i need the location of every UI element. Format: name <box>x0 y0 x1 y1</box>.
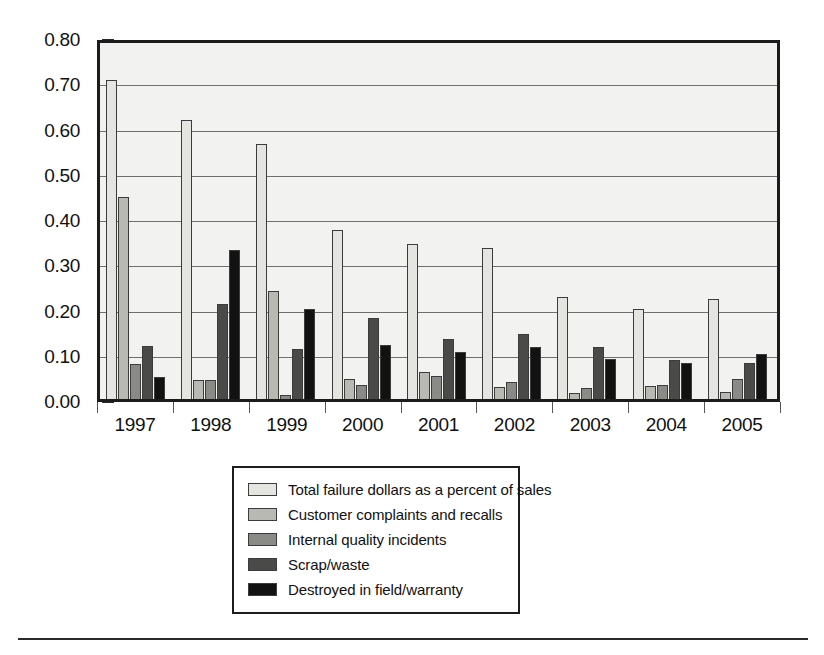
x-tick-mark <box>401 402 402 413</box>
bar-group-2000 <box>326 43 401 399</box>
bar <box>368 318 379 399</box>
bar-group-1998 <box>175 43 250 399</box>
bar <box>181 120 192 399</box>
x-axis-label-2004: 2004 <box>628 414 704 444</box>
legend-item: Internal quality incidents <box>248 527 508 552</box>
bar <box>681 363 692 399</box>
legend-item-label: Total failure dollars as a percent of sa… <box>288 481 551 498</box>
legend-swatch-scrap-waste <box>248 558 277 571</box>
legend-item-label: Internal quality incidents <box>288 531 446 548</box>
x-axis-ticks <box>97 402 780 414</box>
bar <box>443 339 454 399</box>
legend-item-label: Destroyed in field/warranty <box>288 581 463 598</box>
bar <box>506 382 517 399</box>
plot-area <box>97 40 780 402</box>
bar <box>407 244 418 399</box>
bar <box>419 372 430 399</box>
bar <box>530 347 541 399</box>
bar <box>708 299 719 399</box>
bar <box>633 309 644 399</box>
bar-groups <box>100 43 777 399</box>
x-axis-label-2000: 2000 <box>325 414 401 444</box>
bar <box>431 376 442 399</box>
legend-item: Scrap/waste <box>248 552 508 577</box>
legend-item: Customer complaints and recalls <box>248 502 508 527</box>
y-tick-label: 0.70 <box>44 74 80 96</box>
bar <box>669 360 680 399</box>
x-axis-label-1998: 1998 <box>173 414 249 444</box>
bar <box>657 385 668 399</box>
bar <box>106 80 117 399</box>
legend-swatch-total-failure-dollars <box>248 483 277 496</box>
legend-swatch-customer-complaints <box>248 508 277 521</box>
bar <box>142 346 153 399</box>
bar <box>217 304 228 399</box>
bar <box>494 387 505 399</box>
x-tick-mark <box>173 402 174 413</box>
bar <box>581 388 592 399</box>
bar <box>280 395 291 399</box>
x-axis-label-2001: 2001 <box>401 414 477 444</box>
bar <box>332 230 343 399</box>
x-tick-mark <box>704 402 705 413</box>
x-axis-label-1999: 1999 <box>249 414 325 444</box>
x-tick-mark <box>628 402 629 413</box>
bar <box>744 363 755 399</box>
bar-group-1997 <box>100 43 175 399</box>
bar <box>256 144 267 399</box>
bar <box>229 250 240 399</box>
bar-group-2001 <box>401 43 476 399</box>
y-tick-label: 0.00 <box>44 391 80 413</box>
x-axis-label-2003: 2003 <box>552 414 628 444</box>
x-axis-label-2002: 2002 <box>476 414 552 444</box>
bar <box>268 291 279 399</box>
bar <box>356 385 367 399</box>
bar-group-2002 <box>476 43 551 399</box>
legend-swatch-internal-quality <box>248 533 277 546</box>
x-tick-mark <box>249 402 250 413</box>
bar <box>593 347 604 399</box>
y-tick-label: 0.30 <box>44 255 80 277</box>
grouped-bar-chart-figure: 0.800.700.600.500.400.300.200.100.00 199… <box>0 0 824 655</box>
x-axis-labels: 199719981999200020012002200320042005 <box>97 414 780 444</box>
x-tick-mark <box>552 402 553 413</box>
x-axis-label-2005: 2005 <box>704 414 780 444</box>
bar-group-2004 <box>627 43 702 399</box>
bar <box>304 309 315 399</box>
bar <box>482 248 493 399</box>
bar <box>518 334 529 399</box>
x-axis-label-1997: 1997 <box>97 414 173 444</box>
bar <box>292 349 303 399</box>
page-divider-rule <box>18 638 808 640</box>
legend-swatch-destroyed-in-field <box>248 583 277 596</box>
bar-group-2005 <box>702 43 777 399</box>
bar <box>557 297 568 399</box>
bar <box>732 379 743 399</box>
y-tick-label: 0.50 <box>44 165 80 187</box>
legend-item: Total failure dollars as a percent of sa… <box>248 477 508 502</box>
x-tick-mark <box>476 402 477 413</box>
bar <box>344 379 355 399</box>
legend-item-label: Customer complaints and recalls <box>288 506 503 523</box>
bar <box>193 380 204 399</box>
legend-item: Destroyed in field/warranty <box>248 577 508 602</box>
bar <box>205 380 216 399</box>
y-tick-label: 0.80 <box>44 29 80 51</box>
y-axis: 0.800.700.600.500.400.300.200.100.00 <box>18 40 80 402</box>
bar <box>130 364 141 399</box>
bar-group-2003 <box>551 43 626 399</box>
x-tick-mark <box>325 402 326 413</box>
bar <box>118 197 129 399</box>
legend-item-label: Scrap/waste <box>288 556 369 573</box>
bar <box>645 386 656 399</box>
y-tick-label: 0.20 <box>44 301 80 323</box>
bar <box>569 393 580 399</box>
x-tick-mark <box>97 402 98 413</box>
chart-legend: Total failure dollars as a percent of sa… <box>232 466 520 614</box>
bar <box>720 392 731 399</box>
x-tick-mark <box>780 402 781 413</box>
bar <box>756 354 767 399</box>
y-tick-label: 0.10 <box>44 346 80 368</box>
bar <box>154 377 165 399</box>
bar <box>455 352 466 400</box>
